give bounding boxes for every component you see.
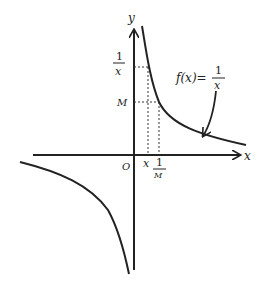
x-tick-one-over-m: 1 M [153, 156, 166, 180]
function-label: f(x)= 1 x [175, 64, 225, 92]
hyperbola-left-branch [20, 162, 129, 274]
svg-text:1: 1 [215, 64, 222, 77]
origin-label: O [122, 161, 130, 172]
y-axis-label: y [127, 11, 135, 25]
hyperbola-diagram: y x O 1 x M x 1 M f(x)= 1 x [0, 0, 269, 292]
svg-text:x: x [214, 79, 221, 92]
svg-text:f(x)=: f(x)= [175, 71, 207, 85]
y-tick-one-over-x: 1 x [113, 50, 125, 78]
svg-text:M: M [153, 171, 163, 180]
x-axis-label: x [244, 149, 251, 163]
svg-text:1: 1 [116, 50, 123, 63]
hyperbola-right-branch [142, 26, 246, 145]
svg-text:1: 1 [156, 156, 163, 169]
y-tick-m: M [116, 97, 128, 108]
guide-lines [134, 67, 159, 155]
x-tick-x: x [143, 157, 150, 170]
label-pointer-arrow [203, 91, 216, 136]
svg-text:x: x [115, 65, 122, 78]
